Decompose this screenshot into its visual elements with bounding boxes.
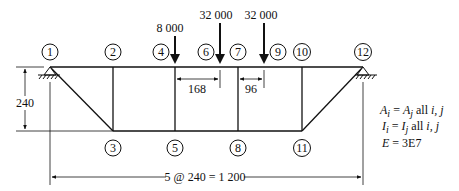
svg-text:9: 9 — [275, 45, 281, 59]
node-9-label: 9 — [270, 44, 286, 60]
svg-text:12: 12 — [357, 45, 369, 59]
svg-text:1: 1 — [47, 45, 53, 59]
node-6-label: 6 — [198, 44, 214, 60]
diagonal-12-11 — [302, 67, 363, 131]
modulus-property: E = 3E7 — [380, 137, 444, 150]
node-10-label: 10 — [294, 44, 311, 61]
node-labels: 1 2 3 4 5 6 7 8 9 10 11 12 — [42, 44, 372, 157]
svg-text:5: 5 — [172, 141, 178, 155]
load-label-32000-b: 32 000 — [245, 8, 278, 22]
loads — [175, 23, 264, 62]
node-11-label: 11 — [294, 140, 311, 157]
node-3-label: 3 — [105, 140, 121, 156]
load-label-32000-a: 32 000 — [200, 8, 233, 22]
area-property: Ai = Aj all i, j — [380, 104, 444, 120]
svg-text:3: 3 — [110, 141, 116, 155]
node-12-label: 12 — [355, 44, 372, 61]
node-7-label: 7 — [230, 44, 246, 60]
load-spacing-96-label: 96 — [245, 82, 257, 96]
svg-text:6: 6 — [203, 45, 209, 59]
node-2-label: 2 — [105, 44, 121, 60]
inertia-property: Ii = Ij all i, j — [380, 120, 444, 136]
svg-text:8: 8 — [235, 141, 241, 155]
right-support — [355, 67, 377, 79]
material-properties: Ai = Aj all i, j Ii = Ij all i, j E = 3E… — [380, 104, 444, 150]
node-1-label: 1 — [42, 44, 58, 60]
span-dimension-label: 5 @ 240 = 1 200 — [165, 170, 246, 184]
svg-text:11: 11 — [296, 141, 308, 155]
diagonal-1-3 — [50, 67, 113, 131]
svg-text:7: 7 — [235, 45, 241, 59]
truss-diagram: 240 168 96 5 @ 240 = 1 200 8 000 32 000 … — [0, 0, 459, 191]
svg-text:10: 10 — [296, 45, 308, 59]
node-4-label: 4 — [153, 44, 169, 60]
svg-text:4: 4 — [158, 45, 164, 59]
truss-members — [50, 67, 363, 131]
load-label-8000: 8 000 — [157, 21, 184, 35]
node-5-label: 5 — [167, 140, 183, 156]
height-dimension-label: 240 — [16, 96, 34, 110]
node-8-label: 8 — [230, 140, 246, 156]
load-spacing-168-label: 168 — [188, 82, 206, 96]
svg-text:2: 2 — [110, 45, 116, 59]
